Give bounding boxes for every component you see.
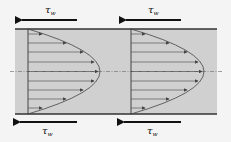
pipe-flow-diagram: τw τw τw τw: [0, 0, 231, 142]
shear-label-bottom-right: τw: [147, 125, 159, 137]
shear-label-top-left: τw: [45, 4, 57, 16]
shear-label-bottom-left: τw: [42, 125, 54, 137]
shear-label-top-right: τw: [148, 4, 160, 16]
